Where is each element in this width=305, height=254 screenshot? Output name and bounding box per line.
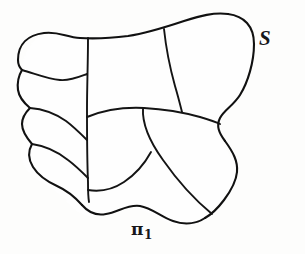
surface-interior-fill [17, 15, 253, 226]
label-partition-pi1: π1 [131, 221, 152, 241]
label-surface-s: S [259, 28, 271, 49]
partition-subscript: 1 [143, 228, 152, 242]
partition-symbol: π [131, 219, 143, 239]
outline-left-edge-upper [18, 60, 22, 70]
figure-canvas: S π1 [0, 0, 305, 254]
